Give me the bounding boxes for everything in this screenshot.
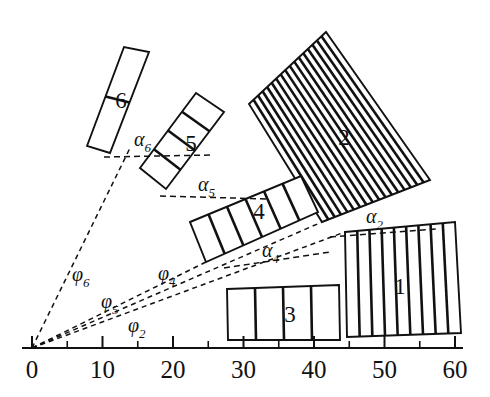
sector-3-slat-1 — [255, 288, 256, 340]
alpha-6-label: α6 — [134, 128, 152, 155]
ray-phi-6 — [32, 148, 130, 348]
sector-3-slat-3 — [311, 286, 312, 340]
phi-6-label: φ6 — [72, 263, 90, 290]
axis-label-40: 40 — [302, 356, 327, 383]
sector-1-label: 1 — [394, 274, 406, 299]
axis-label-0: 0 — [26, 356, 39, 383]
sector-5-label: 5 — [185, 131, 197, 156]
axis-label-10: 10 — [90, 356, 115, 383]
ray-phi-5 — [32, 262, 206, 348]
phi-2-label: φ2 — [128, 314, 146, 341]
figure-canvas: 0102030405060123456α2α4α5α6φ2φ4φ5φ6 — [0, 0, 490, 397]
phi-4-label: φ4 — [158, 262, 176, 289]
sector-5 — [140, 93, 224, 189]
axis-label-60: 60 — [443, 356, 468, 383]
sector-3-label: 3 — [284, 302, 296, 327]
axis-label-30: 30 — [231, 356, 256, 383]
phi-5-label: φ5 — [101, 290, 119, 317]
alpha-2-label: α2 — [366, 205, 384, 232]
axis-layer — [22, 336, 463, 348]
sector-4-label: 4 — [253, 199, 265, 224]
axis-label-50: 50 — [372, 356, 397, 383]
sector-6-label: 6 — [115, 88, 127, 113]
axis-label-20: 20 — [161, 356, 186, 383]
sector-2-label: 2 — [338, 125, 350, 150]
alpha-5-label: α5 — [198, 173, 216, 200]
sector-geometry-diagram: 0102030405060123456α2α4α5α6φ2φ4φ5φ6 — [0, 0, 490, 397]
